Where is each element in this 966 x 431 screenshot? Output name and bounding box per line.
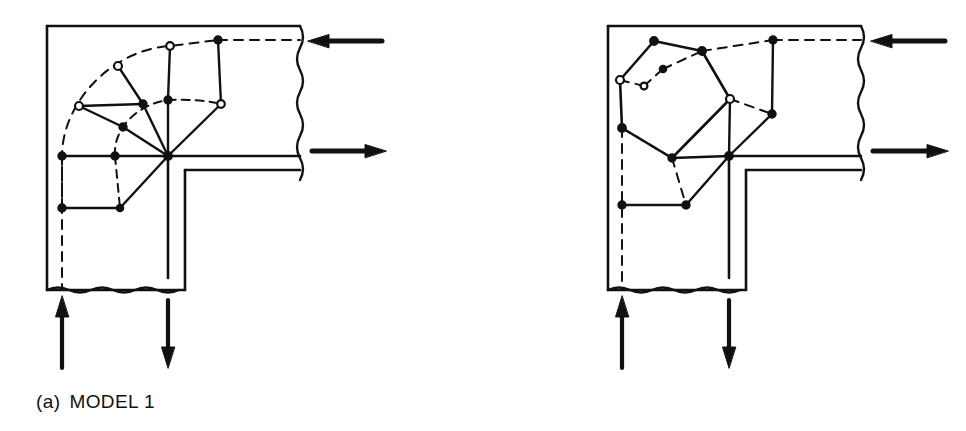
mesh-spokes (62, 100, 221, 208)
model-1-diagram (0, 0, 483, 431)
mesh-radial-links (62, 40, 221, 208)
caption-model-1: (a)MODEL 1 (36, 391, 155, 413)
break-line-bottom (47, 288, 179, 293)
construction-dashed (622, 40, 861, 290)
duct-outer-wall (608, 26, 861, 290)
mesh-node-open (616, 76, 734, 103)
mesh-polygon-edges (620, 41, 730, 158)
duct-inner-wall (729, 156, 861, 290)
panel-model-2: (b)MODEL 2 (483, 0, 966, 431)
panel-model-1: (a)MODEL 1 (0, 0, 483, 431)
caption-tag-a: (a) (36, 391, 60, 412)
mesh-node-solid (618, 36, 777, 209)
duct-outer-wall (47, 26, 300, 290)
mesh-solid-links (622, 40, 773, 205)
flow-arrows (616, 35, 949, 369)
figure-container: (a)MODEL 1 (0, 0, 966, 431)
mesh-hub-node (164, 152, 172, 160)
construction-dashed (62, 40, 300, 290)
duct-inner-wall (168, 156, 300, 290)
mesh-hub-node (725, 152, 733, 160)
mesh-dashed-links (620, 40, 773, 205)
mesh-outer-arc-dashed (62, 40, 218, 208)
break-line-bottom (608, 288, 740, 293)
mesh-inner-arc-dashed-lower (115, 156, 120, 208)
caption-label-a: MODEL 1 (69, 391, 155, 412)
model-2-diagram (483, 0, 966, 431)
